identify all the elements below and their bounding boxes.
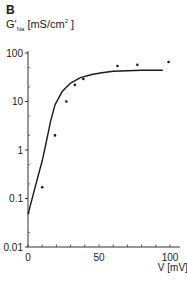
data-point bbox=[54, 134, 57, 137]
data-point bbox=[65, 100, 68, 103]
data-point bbox=[167, 61, 170, 64]
x-tick-label: 50 bbox=[93, 252, 105, 263]
y-tick-label: 0.1 bbox=[9, 193, 23, 204]
data-point bbox=[82, 78, 85, 81]
y-tick-label: 100 bbox=[6, 48, 23, 59]
x-axis-label: V [mV] bbox=[158, 262, 187, 273]
x-tick-label: 0 bbox=[25, 252, 31, 263]
y-tick-label: 10 bbox=[12, 96, 24, 107]
data-point bbox=[41, 186, 44, 189]
y-tick-label: 0.01 bbox=[4, 242, 24, 253]
data-point bbox=[136, 64, 139, 67]
data-point bbox=[74, 84, 77, 87]
data-point bbox=[116, 65, 119, 68]
fit-curve bbox=[28, 70, 163, 214]
y-tick-label: 1 bbox=[17, 145, 23, 156]
chart-plot: 0.010.1110100050100V [mV] bbox=[0, 0, 187, 286]
